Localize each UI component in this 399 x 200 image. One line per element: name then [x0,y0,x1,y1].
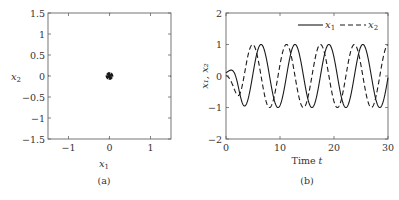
y-tick-label: −0.5 [22,92,45,103]
plot-b-frame [226,13,388,139]
y-tick-label: 0.5 [30,50,45,61]
x-tick-label: 30 [382,142,394,153]
y-tick-label: −2 [208,134,222,145]
y-tick-label: 0 [39,71,45,82]
time-series-panel: 210−1−20102030 x1 x2 Time t x₁, x₂ (b) [199,8,394,187]
plot-a-ticks: 1.510.50−0.5−1−1.5−101 [22,8,171,154]
caption-b: (b) [300,175,314,186]
x-tick-label: 1 [147,142,153,153]
x-tick-label: 0 [106,142,112,153]
x-axis-label-a: x1 [99,158,109,171]
legend-x2-label: x2 [368,19,378,32]
plot-b-ticks: 210−1−20102030 [208,8,394,154]
x-tick-label: 0 [223,142,229,153]
y-tick-label: −1 [208,102,222,113]
caption-a: (a) [97,175,110,186]
y-axis-label-b: x₁, x₂ [199,63,210,89]
y-axis-label-a: x2 [11,71,21,84]
x-axis-label-b: Time t [292,155,323,166]
x-tick-label: 20 [328,142,340,153]
phase-trajectories [46,11,173,141]
y-tick-label: 1 [39,29,45,40]
y-tick-label: −1.5 [22,134,45,145]
time-series-lines [226,44,388,107]
phase-portrait-panel: 1.510.50−0.5−1−1.5−101 x1 x2 (a) [11,8,173,187]
x-tick-label: 10 [274,142,286,153]
legend: x1 x2 [298,19,378,32]
y-tick-label: 1.5 [30,8,45,19]
figure: 1.510.50−0.5−1−1.5−101 x1 x2 (a) 210−1−2… [0,0,399,200]
x-tick-label: −1 [61,142,75,153]
legend-x1-label: x1 [325,19,335,32]
y-tick-label: 1 [216,39,222,50]
y-tick-label: 0 [216,71,222,82]
y-tick-label: −1 [31,113,45,124]
y-tick-label: 2 [216,8,222,19]
